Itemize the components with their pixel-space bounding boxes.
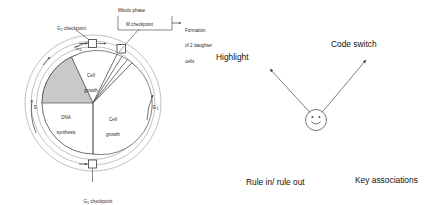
sector-label-cell-growth-g1: Cell growth <box>98 106 128 148</box>
strategy-map <box>270 60 366 131</box>
smiley-face-icon <box>306 110 327 131</box>
smiley-left-eye-icon <box>311 116 313 118</box>
ring-label-s: S <box>28 99 37 116</box>
sector-label-cell-growth-g2: Cell growth <box>74 62 108 104</box>
ring-label-g2: G2 <box>70 40 82 58</box>
m-checkpoint-leader <box>125 29 139 45</box>
sector-label-dna-synthesis: DNA synthesis <box>48 104 84 146</box>
g1-checkpoint-box[interactable] <box>89 160 97 168</box>
label-m-checkpoint: M checkpoint <box>126 22 153 27</box>
screenshot-canvas: G2 checkpoint Mitotic phase M checkpoint… <box>0 0 439 205</box>
outcome-line-3: cells <box>185 59 212 64</box>
g2-checkpoint-box[interactable] <box>89 40 97 48</box>
m-checkpoint-box[interactable] <box>117 45 126 54</box>
label-formation-daughter-cells: Formation of 2 daughter cells <box>185 17 212 75</box>
arrow-ring-inner-s <box>43 57 50 65</box>
label-highlight: Highlight <box>216 53 249 63</box>
label-rule-in-rule-out: Rule in/ rule out <box>246 178 305 188</box>
label-g2-checkpoint: G2 checkpoint <box>52 21 86 37</box>
ring-label-g1: G1 <box>147 99 159 117</box>
arrow-to-highlight <box>270 69 310 113</box>
label-mitotic-phase: Mitotic phase <box>118 8 145 13</box>
label-g1-checkpoint: G1 checkpoint (restriction) <box>68 183 120 205</box>
label-key-associations: Key associations <box>355 176 418 186</box>
outcome-line-1: Formation <box>185 28 212 33</box>
outcome-line-2: of 2 daughter <box>185 43 212 48</box>
smiley-right-eye-icon <box>318 116 320 118</box>
label-code-switch: Code switch <box>331 40 377 50</box>
arrow-to-code-switch <box>322 60 366 113</box>
g1-checkpoint-line-1: G1 checkpoint <box>68 194 120 205</box>
